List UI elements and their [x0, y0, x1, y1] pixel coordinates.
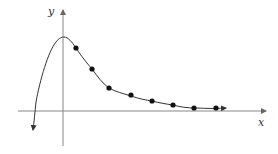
curve — [36, 37, 226, 108]
data-point — [73, 45, 78, 50]
data-points — [73, 45, 218, 110]
data-point — [191, 105, 196, 110]
curve-left-arm — [33, 102, 36, 130]
data-point — [128, 92, 133, 97]
function-graph: y x — [0, 0, 278, 154]
data-point — [213, 105, 218, 110]
x-axis-label: x — [258, 116, 265, 129]
data-point — [170, 102, 175, 107]
y-axis-label: y — [47, 5, 55, 18]
data-point — [89, 66, 94, 71]
data-point — [106, 85, 111, 90]
data-point — [149, 98, 154, 103]
